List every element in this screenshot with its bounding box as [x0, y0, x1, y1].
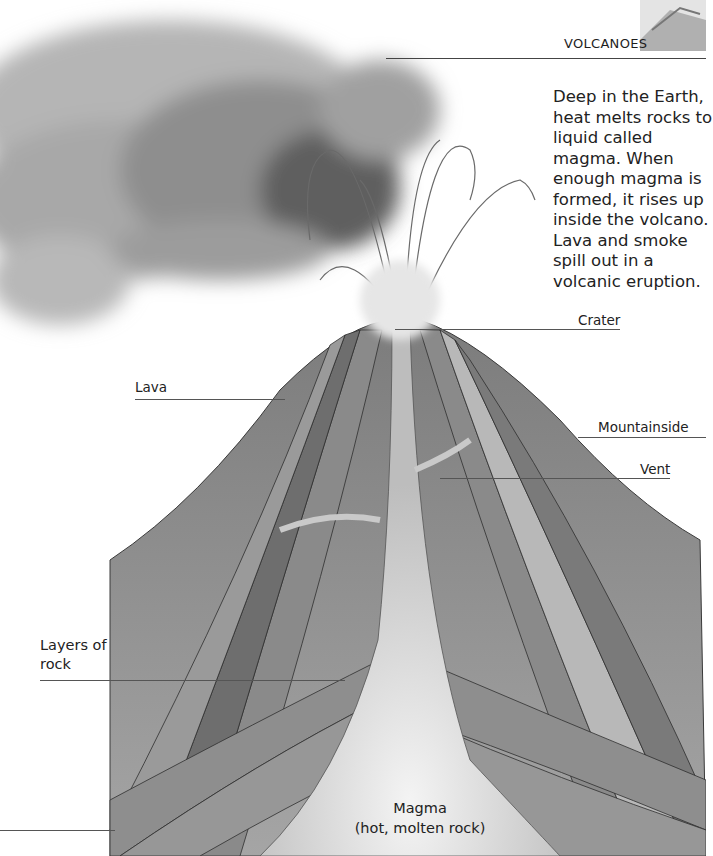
section-title: VOLCANOES [564, 36, 647, 51]
leader-line-vent [440, 478, 670, 479]
label-vent: Vent [640, 461, 670, 477]
label-mountainside: Mountainside [598, 419, 689, 435]
label-lava: Lava [135, 379, 167, 395]
header-divider [386, 58, 706, 59]
leader-line-layers-of-rock [40, 680, 345, 681]
leader-line-crater [395, 329, 620, 330]
volcano-thumbnail-icon [640, 0, 706, 51]
magma-subtitle: (hot, molten rock) [330, 818, 510, 838]
label-magma: Magma (hot, molten rock) [330, 798, 510, 838]
bottom-left-rule [0, 830, 115, 831]
leader-line-mountainside [578, 437, 706, 438]
leader-line-lava [135, 399, 285, 400]
intro-paragraph: Deep in the Earth, heat melts rocks to l… [553, 87, 713, 292]
magma-title: Magma [330, 798, 510, 818]
label-crater: Crater [578, 312, 620, 328]
label-layers-of-rock: Layers of rock [40, 636, 120, 674]
